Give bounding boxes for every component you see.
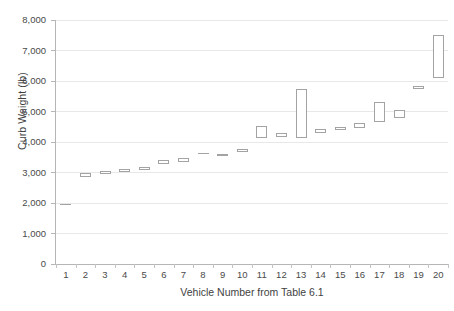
gridline — [56, 50, 448, 51]
data-bar — [394, 110, 405, 118]
y-axis-line — [55, 20, 56, 265]
y-axis-tick — [51, 203, 56, 204]
y-axis-tick — [51, 111, 56, 112]
y-axis-tick — [51, 50, 56, 51]
x-axis-title: Vehicle Number from Table 6.1 — [56, 286, 448, 298]
data-bar — [374, 102, 385, 122]
gridline — [56, 81, 448, 82]
y-axis-tick — [51, 142, 56, 143]
x-axis-tick — [272, 264, 273, 268]
data-bar — [296, 89, 307, 138]
x-axis-tick — [154, 264, 155, 268]
gridline — [56, 233, 448, 234]
data-bar — [100, 171, 111, 175]
data-bar — [178, 158, 189, 162]
y-axis-tick — [51, 20, 56, 21]
x-axis-tick — [174, 264, 175, 268]
y-axis-label: 3,000 — [2, 168, 46, 178]
data-bar — [139, 167, 150, 170]
x-axis-tick — [448, 264, 449, 268]
data-bar — [354, 123, 365, 128]
x-axis-tick — [56, 264, 57, 268]
x-axis-tick — [213, 264, 214, 268]
x-axis-tick — [409, 264, 410, 268]
gridline — [56, 111, 448, 112]
curb-weight-chart: Curb Weight (lb) Vehicle Number from Tab… — [0, 0, 454, 311]
data-bar — [237, 149, 248, 152]
data-bar — [256, 126, 267, 138]
x-axis-tick — [252, 264, 253, 268]
y-axis-label: 5,000 — [2, 107, 46, 117]
x-axis-tick — [291, 264, 292, 268]
x-axis-tick — [193, 264, 194, 268]
data-bar — [60, 204, 71, 205]
x-axis-label: 20 — [426, 269, 450, 280]
data-bar — [198, 153, 209, 154]
x-axis-tick — [76, 264, 77, 268]
x-axis-tick — [232, 264, 233, 268]
y-axis-tick — [51, 233, 56, 234]
data-bar — [413, 86, 424, 89]
x-axis-tick — [428, 264, 429, 268]
gridline — [56, 20, 448, 21]
x-axis-tick — [95, 264, 96, 268]
gridline — [56, 142, 448, 143]
data-bar — [315, 129, 326, 133]
y-axis-label: 2,000 — [2, 198, 46, 208]
data-bar — [217, 154, 228, 156]
x-axis-tick — [370, 264, 371, 268]
data-bar — [158, 160, 169, 164]
x-axis-tick — [311, 264, 312, 268]
y-axis-label: 0 — [2, 259, 46, 269]
x-axis-tick — [330, 264, 331, 268]
x-axis-tick — [389, 264, 390, 268]
y-axis-tick — [51, 81, 56, 82]
y-axis-tick — [51, 172, 56, 173]
data-bar — [80, 173, 91, 177]
data-bar — [119, 169, 130, 172]
y-axis-label: 7,000 — [2, 46, 46, 56]
data-bar — [433, 35, 444, 78]
gridline — [56, 203, 448, 204]
data-bar — [335, 127, 346, 130]
x-axis-tick — [115, 264, 116, 268]
gridline — [56, 172, 448, 173]
y-axis-label: 8,000 — [2, 15, 46, 25]
y-axis-label: 6,000 — [2, 76, 46, 86]
data-bar — [276, 133, 287, 137]
x-axis-tick — [134, 264, 135, 268]
y-axis-label: 1,000 — [2, 229, 46, 239]
y-axis-label: 4,000 — [2, 137, 46, 147]
x-axis-tick — [350, 264, 351, 268]
